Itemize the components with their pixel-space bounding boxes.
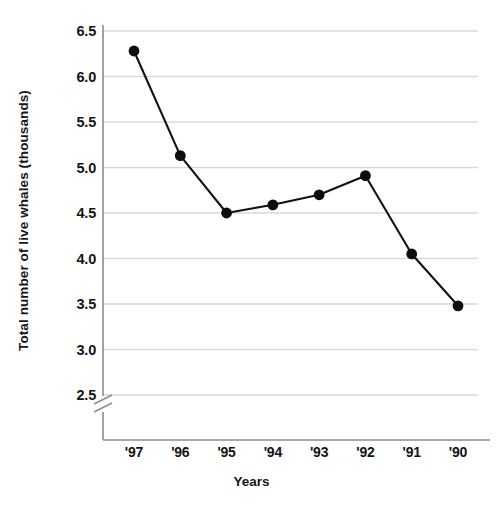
data-point-marker[interactable] (453, 300, 464, 311)
data-point-marker[interactable] (406, 249, 417, 260)
data-point-marker[interactable] (360, 170, 371, 181)
data-point-marker[interactable] (267, 199, 278, 210)
x-axis-tick-label: '95 (217, 444, 235, 460)
x-axis-tick-label: '92 (356, 444, 374, 460)
plot-area (0, 0, 503, 507)
axis-break-mark (94, 403, 112, 412)
x-axis-tick-label: '90 (449, 444, 467, 460)
axis-break-mark (94, 395, 112, 404)
x-axis-tick-label: '96 (171, 444, 189, 460)
x-axis-title: Years (0, 474, 503, 489)
whale-population-line-chart: Total number of live whales (thousands) … (0, 0, 503, 507)
data-line-series (134, 51, 458, 306)
x-axis-tick-label: '97 (125, 444, 143, 460)
data-point-marker[interactable] (175, 150, 186, 161)
data-point-marker[interactable] (129, 46, 140, 57)
x-axis-tick-label: '91 (403, 444, 421, 460)
data-point-marker[interactable] (221, 208, 232, 219)
x-axis-tick-label: '94 (264, 444, 282, 460)
data-point-marker[interactable] (314, 189, 325, 200)
x-axis-tick-label: '93 (310, 444, 328, 460)
